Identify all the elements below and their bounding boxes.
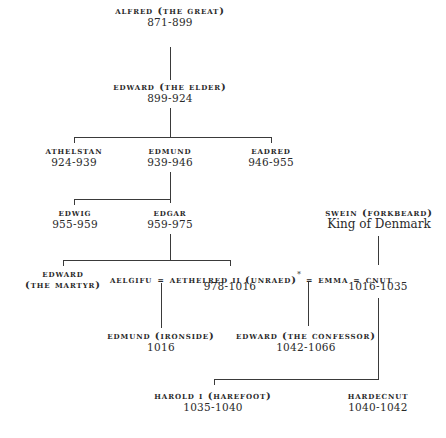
node-dates: 899-924	[113, 92, 226, 105]
node-name: Edgar	[147, 207, 193, 218]
connector-line	[378, 298, 379, 380]
footnote-asterisk: *	[297, 270, 301, 279]
node-dates: 1016	[107, 341, 214, 354]
node-hardecnut: Hardecnut 1040-1042	[348, 390, 409, 414]
connector-line	[161, 283, 162, 328]
node-swein: Swein (Forkbeard) King of Denmark	[325, 207, 433, 231]
node-name: Edward	[25, 268, 101, 279]
node-edward-the-confessor: Edward (The Confessor) 1042-1066	[236, 330, 376, 354]
node-edmund-ironside: Edmund (Ironside) 1016	[107, 330, 214, 354]
node-edward-the-martyr: Edward (The Martyr)	[25, 268, 101, 290]
node-name: Edward (The Confessor)	[236, 330, 376, 341]
node-emma: Emma	[318, 274, 348, 285]
aethelred-dates: 978-1016	[204, 280, 257, 293]
node-subtitle: King of Denmark	[325, 218, 433, 231]
node-edward-the-elder: Edward (The Elder) 899-924	[113, 81, 226, 105]
node-dates: 871-899	[115, 16, 225, 29]
connector-line	[63, 260, 231, 261]
connector-line	[378, 236, 379, 265]
node-dates: 1042-1066	[236, 341, 376, 354]
node-aelgifu: Aelgifu	[110, 274, 152, 285]
node-name: Edward (The Elder)	[113, 81, 226, 92]
connector-line	[214, 379, 215, 385]
node-dates: 1035-1040	[154, 401, 271, 414]
connector-line	[74, 199, 171, 200]
connector-line	[170, 234, 171, 260]
node-edgar: Edgar 959-975	[147, 207, 193, 231]
node-dates: 924-939	[46, 156, 103, 169]
node-name: Edmund	[147, 145, 193, 156]
node-name: Harold I (Harefoot)	[154, 390, 271, 401]
connector-line	[230, 260, 231, 266]
node-alfred: Alfred (The Great) 871-899	[115, 5, 225, 29]
connector-line	[74, 137, 272, 138]
connector-line	[271, 137, 272, 143]
node-athelstan: Athelstan 924-939	[46, 145, 103, 169]
connector-line	[74, 137, 75, 143]
node-name: Eadred	[248, 145, 294, 156]
connector-line	[308, 282, 309, 326]
connector-line	[214, 379, 379, 380]
node-eadred: Eadred 946-955	[248, 145, 294, 169]
connector-line	[170, 108, 171, 137]
node-dates: 946-955	[248, 156, 294, 169]
node-dates: 939-946	[147, 156, 193, 169]
connector-line	[74, 199, 75, 205]
node-name: Hardecnut	[348, 390, 409, 401]
node-dates: 959-975	[147, 218, 193, 231]
node-harold-harefoot: Harold I (Harefoot) 1035-1040	[154, 390, 271, 414]
node-name: Athelstan	[46, 145, 103, 156]
cnut-dates: 1016-1035	[348, 280, 408, 293]
node-dates: 955-959	[52, 218, 98, 231]
node-edmund: Edmund 939-946	[147, 145, 193, 169]
node-name: Edwig	[52, 207, 98, 218]
node-name: Edmund (Ironside)	[107, 330, 214, 341]
node-dates: 1040-1042	[348, 401, 409, 414]
connector-line	[170, 47, 171, 80]
node-name: (The Martyr)	[25, 279, 101, 290]
node-edwig: Edwig 955-959	[52, 207, 98, 231]
connector-line	[63, 260, 64, 266]
node-name: Alfred (The Great)	[115, 5, 225, 16]
